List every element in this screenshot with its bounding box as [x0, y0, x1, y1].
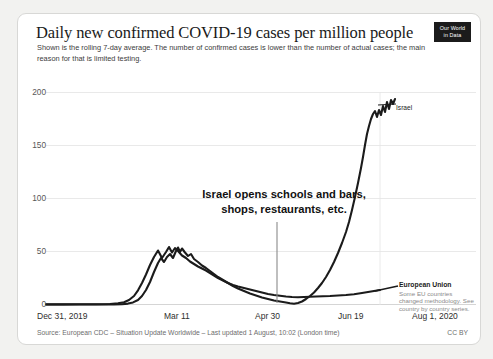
eu-legend-note: Some EU countries changed methodology. S… — [399, 290, 475, 312]
license-text: CC BY — [447, 329, 468, 336]
x-tick-2: Apr 30 — [255, 311, 280, 321]
series-line-european-union — [46, 247, 380, 304]
y-tick-100: 100 — [20, 193, 46, 203]
series-label-european-union: European Union Some EU countries changed… — [399, 281, 475, 312]
eu-legend-title: European Union — [399, 281, 475, 289]
x-tick-0: Dec 31, 2019 — [37, 311, 88, 321]
gridlines — [46, 93, 476, 252]
y-tick-50: 50 — [20, 246, 46, 256]
x-tick-1: Mar 11 — [164, 311, 190, 321]
chart-annotation: Israel opens schools and bars, shops, re… — [186, 187, 382, 217]
x-tick-3: Jun 19 — [338, 311, 364, 321]
y-tick-200: 200 — [20, 87, 46, 97]
y-tick-0: 0 — [20, 299, 46, 309]
source-text: Source: European CDC – Situation Update … — [37, 329, 340, 336]
y-tick-150: 150 — [20, 140, 46, 150]
series-label-israel: Israel — [396, 104, 412, 111]
eu-legend-leader — [375, 286, 398, 291]
chart-card: Daily new confirmed COVID-19 cases per m… — [17, 13, 481, 345]
x-tick-4: Aug 1, 2020 — [412, 311, 458, 321]
